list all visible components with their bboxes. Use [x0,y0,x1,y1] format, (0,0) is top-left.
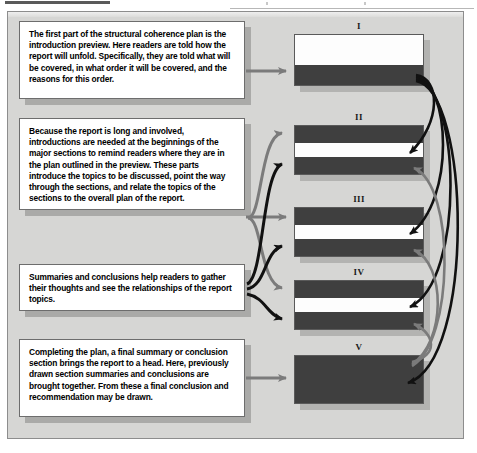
section-band-dark [295,65,423,85]
section-band-light [295,143,423,156]
section-band-dark [295,208,423,225]
connector-callout2-to-IV [248,218,282,288]
connector-callout3-to-II [247,164,282,284]
section-band-dark [295,239,423,256]
scan-artifact-hairline [230,8,474,9]
section-band-light [295,35,423,65]
scan-artifact-rule [5,1,110,4]
section-block-1 [294,34,424,86]
section-band-dark [295,126,423,143]
section-band-light [295,298,423,311]
section-label-5: V [294,342,424,352]
section-block-3 [294,207,424,257]
section-block-5 [294,355,424,404]
connector-callout3-to-III [247,246,282,289]
section-label-3: III [294,194,424,204]
connector-callout3-to-IV [247,294,282,319]
callout-section-introductions: Because the report is long and involved,… [19,118,245,210]
structural-coherence-figure: The first part of the structural coheren… [7,11,464,439]
section-band-dark [295,281,423,298]
callout-summaries-and-conclusions: Summaries and conclusions help readers t… [19,264,245,311]
section-label-1: I [294,21,424,31]
section-block-2 [294,125,424,175]
section-block-4 [294,280,424,330]
scan-artifact-speck [364,2,366,5]
callout-introduction-preview: The first part of the structural coheren… [19,21,245,99]
connector-callout2-to-II [248,133,282,218]
section-band-dark [295,356,423,403]
section-band-light [295,225,423,238]
callout-final-summary-conclusion: Completing the plan, a final summary or … [19,339,245,417]
section-label-2: II [294,112,424,122]
section-band-dark [295,157,423,174]
section-label-4: IV [294,267,424,277]
scan-artifact-speck [266,2,268,5]
panel-top-highlight [8,12,463,17]
section-band-dark [295,312,423,329]
